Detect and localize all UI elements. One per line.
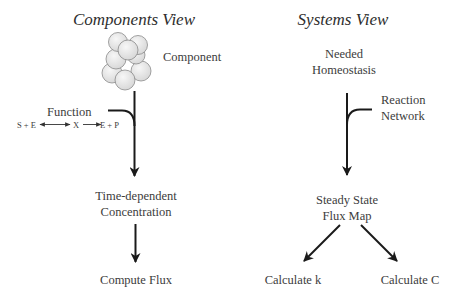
- label-line-2: Network: [381, 108, 425, 124]
- reaction-network-label: Reaction Network: [381, 92, 425, 124]
- function-label: Function: [47, 104, 91, 120]
- label-line-1: Reaction: [381, 92, 425, 108]
- flux-map-to-calculate-c-arrow: [361, 225, 397, 261]
- node-line-1: Steady State: [316, 192, 378, 208]
- reaction-network-input-curve: [347, 110, 372, 126]
- node-line-2: Homeostasis: [312, 62, 376, 78]
- calculate-c-node: Calculate C: [381, 272, 440, 288]
- component-label: Component: [163, 49, 221, 65]
- flux-map-to-calculate-k-arrow: [304, 225, 340, 261]
- needed-homeostasis-node: Needed Homeostasis: [312, 46, 376, 78]
- diagram-canvas: Components View Systems View Component F…: [0, 0, 453, 299]
- reaction-substrate-enzyme: S + E: [17, 120, 36, 130]
- node-line-1: Needed: [312, 46, 376, 62]
- components-view-title: Components View: [73, 10, 195, 30]
- steady-state-flux-map-node: Steady State Flux Map: [316, 192, 378, 224]
- time-dependent-concentration-node: Time-dependent Concentration: [95, 188, 176, 220]
- node-line-2: Flux Map: [316, 208, 378, 224]
- reaction-intermediate: X: [73, 120, 79, 130]
- diagram-graphics: [0, 0, 453, 299]
- calculate-k-node: Calculate k: [265, 272, 322, 288]
- node-line-1: Time-dependent: [95, 188, 176, 204]
- compute-flux-node: Compute Flux: [100, 272, 172, 288]
- reaction-product: E + P: [100, 120, 119, 130]
- node-line-2: Concentration: [95, 204, 176, 220]
- component-sphere-cluster-icon: [102, 33, 151, 91]
- systems-view-title: Systems View: [298, 10, 389, 30]
